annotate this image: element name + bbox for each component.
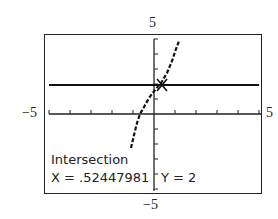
intersection-title: Intersection bbox=[51, 153, 128, 166]
curve-graph bbox=[131, 41, 179, 148]
ymax-label: 5 bbox=[149, 16, 156, 30]
xmin-label: −5 bbox=[22, 106, 37, 120]
intersection-x-value: X = .52447981 bbox=[51, 171, 149, 184]
intersection-y-value: Y = 2 bbox=[161, 171, 196, 184]
calculator-graph-screen: Intersection X = .52447981 Y = 2 bbox=[44, 34, 262, 194]
xmax-label: 5 bbox=[266, 106, 273, 120]
ymin-label: −5 bbox=[143, 198, 158, 212]
